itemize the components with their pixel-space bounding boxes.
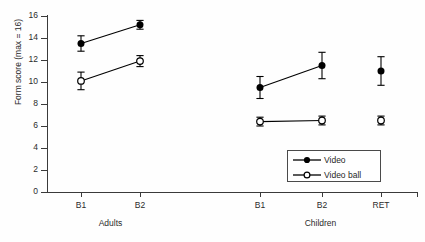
data-point xyxy=(318,52,325,78)
series-line xyxy=(81,61,140,81)
legend: Video Video ball xyxy=(287,150,381,182)
data-point xyxy=(77,36,84,51)
data-point xyxy=(377,57,384,86)
data-point xyxy=(256,77,263,99)
series-line xyxy=(260,121,322,122)
open-circle-icon xyxy=(292,167,322,183)
legend-entry-video-ball: Video ball xyxy=(288,167,380,183)
data-point xyxy=(377,116,384,125)
data-point xyxy=(318,116,325,125)
series-line xyxy=(81,25,140,44)
open-circle-marker xyxy=(137,58,144,65)
data-point xyxy=(256,117,263,126)
plot-area xyxy=(0,0,425,242)
legend-label-video-ball: Video ball xyxy=(324,170,361,180)
series-line xyxy=(260,66,322,88)
open-circle-marker xyxy=(319,117,326,124)
open-circle-marker xyxy=(78,78,85,85)
open-circle-marker xyxy=(257,118,264,125)
figure-canvas: Form score (max = 16) 1614121086420 B1B2… xyxy=(0,0,425,242)
filled-circle-marker xyxy=(257,84,264,91)
open-circle-marker xyxy=(378,117,385,124)
data-point xyxy=(136,56,143,67)
filled-circle-marker xyxy=(378,68,385,75)
filled-circle-marker xyxy=(78,40,85,47)
data-point xyxy=(136,20,143,29)
data-point xyxy=(77,72,84,90)
filled-circle-icon xyxy=(292,152,322,168)
filled-circle-marker xyxy=(319,62,326,69)
legend-label-video: Video xyxy=(324,155,346,165)
legend-entry-video: Video xyxy=(288,152,380,168)
filled-circle-marker xyxy=(137,21,144,28)
